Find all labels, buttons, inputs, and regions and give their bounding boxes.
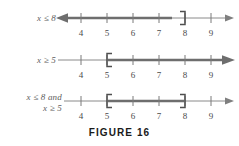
arrow-right-icon [225,98,234,105]
tick-label-4: 4 [79,70,84,80]
tick-label-7: 7 [157,28,162,38]
tick-label-9: 9 [209,28,214,38]
tick-label-8: 8 [183,70,188,80]
arrow-right-icon [225,15,234,22]
numberline-svg-compound [0,91,239,115]
tick-label-5: 5 [105,70,110,80]
tick-label-5: 5 [105,111,110,121]
tick-label-9: 9 [209,70,214,80]
tick-label-6: 6 [131,28,136,38]
tick-label-8: 8 [183,28,188,38]
arrow-right-icon [222,55,235,65]
figure-16: x ≤ 8 4 5 6 7 8 9 x [0,0,239,146]
tick-label-9: 9 [209,111,214,121]
numberline-row-x-ge-5: x ≥ 5 4 5 6 7 8 9 [0,50,239,82]
tick-label-6: 6 [131,111,136,121]
tick-label-7: 7 [157,111,162,121]
tick-label-4: 4 [79,111,84,121]
arrow-left-icon [56,13,68,23]
numberline-row-x-le-8: x ≤ 8 4 5 6 7 8 9 [0,8,239,40]
tick-label-5: 5 [105,28,110,38]
figure-caption: FIGURE 16 [0,127,239,138]
numberline-row-x-le-8-and-x-ge-5: x ≤ 8 and x ≥ 5 4 5 6 7 8 9 [0,91,239,125]
tick-label-8: 8 [183,111,188,121]
tick-label-7: 7 [157,70,162,80]
numberline-svg-x-le-8 [0,8,239,32]
tick-label-4: 4 [79,28,84,38]
tick-label-6: 6 [131,70,136,80]
numberline-svg-x-ge-5 [0,50,239,74]
